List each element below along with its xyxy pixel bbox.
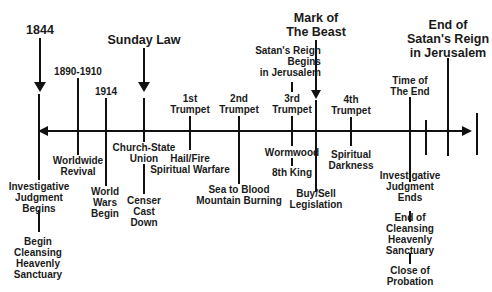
label-1914: 1914 <box>95 86 117 97</box>
label-begin-cleansing: Begin Cleansing Heavenly Sanctuary <box>14 236 62 280</box>
label-8th-king: 8th King <box>272 167 312 178</box>
label-3rd-trumpet: 3rd Trumpet <box>272 93 311 115</box>
label-end-of-cleansing: End of Cleansing Heavenly Sanctuary <box>386 212 434 256</box>
arrow-down-icon-mark-of-the-beast <box>311 90 321 99</box>
label-2nd-trumpet: 2nd Trumpet <box>219 93 258 115</box>
label-world-wars-begin: World Wars Begin <box>91 186 119 219</box>
label-close-of-probation: Close of Probation <box>387 265 434 287</box>
label-1st-trumpet: 1st Trumpet <box>170 93 209 115</box>
axis-right-arrow-icon <box>462 126 472 136</box>
label-end-of-satans-reign: End of Satan's Reign in Jerusalem <box>407 18 489 60</box>
label-spiritual-darkness: Spiritual Darkness <box>328 149 373 171</box>
label-satans-reign-begins: Satan's Reign Begins in Jerusalem <box>255 45 321 78</box>
arrow-down-icon-1844 <box>34 82 46 92</box>
label-4th-trumpet: 4th Trumpet <box>331 94 370 116</box>
label-investigative-judgment-begins: Investigative Judgment Begins <box>9 181 70 214</box>
label-1890-1910: 1890-1910 <box>54 66 102 77</box>
label-investigative-judgment-ends: Investigative Judgment Ends <box>380 170 441 203</box>
label-sunday-law: Sunday Law <box>108 33 181 47</box>
arrow-down-icon-sunday-law <box>138 82 150 92</box>
label-wormwood: Wormwood <box>265 147 319 158</box>
label-mark-of-the-beast: Mark of The Beast <box>286 11 346 39</box>
label-buy-sell: Buy/Sell Legislation <box>290 188 343 210</box>
label-sea-to-blood: Sea to Blood Mountain Burning <box>196 184 282 206</box>
label-1844: 1844 <box>26 23 54 37</box>
label-time-of-the-end: Time of The End <box>390 75 429 97</box>
label-worldwide-revival: Worldwide Revival <box>53 155 103 177</box>
label-censer-cast-down: Censer Cast Down <box>127 195 161 228</box>
label-hail-fire: Hail/Fire Spiritual Warfare <box>150 153 230 175</box>
